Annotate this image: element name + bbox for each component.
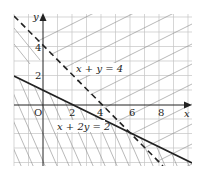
y-axis-label: y	[32, 11, 39, 22]
x-tick-8: 8	[158, 107, 164, 118]
label-x-plus-2y-eq-2: x + 2y = 2	[57, 121, 111, 132]
line-x-plus-2y-eq-2	[14, 76, 192, 163]
inequality-graph: y x O 2 4 6 8 2 4 x + y = 4 x + 2y = 2	[0, 0, 198, 176]
x-tick-4: 4	[97, 107, 103, 118]
grid	[14, 14, 192, 166]
hatch-region-upper	[0, 0, 198, 176]
y-tick-2: 2	[35, 70, 41, 81]
x-tick-6: 6	[129, 107, 135, 118]
label-x-plus-y-eq-4: x + y = 4	[76, 63, 123, 74]
x-tick-2: 2	[69, 107, 75, 118]
origin-label: O	[34, 107, 42, 118]
x-axis-label: x	[184, 108, 190, 119]
y-tick-4: 4	[35, 42, 41, 53]
